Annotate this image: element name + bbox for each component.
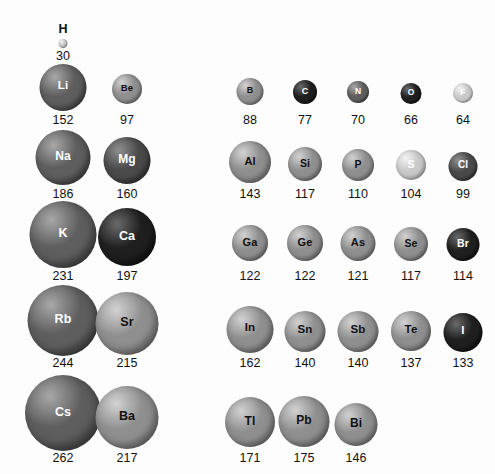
sphere-ca: Ca bbox=[98, 208, 156, 266]
radius-value-na: 186 bbox=[53, 188, 74, 201]
sphere-k: K bbox=[30, 201, 97, 268]
sphere-tl: Tl bbox=[225, 397, 275, 447]
element-symbol-ge: Ge bbox=[298, 237, 313, 248]
radius-value-n: 70 bbox=[351, 114, 365, 127]
sphere-o: O bbox=[401, 83, 422, 104]
sphere-cs: Cs bbox=[25, 375, 101, 451]
radius-value-cl: 99 bbox=[456, 188, 470, 201]
element-symbol-cl: Cl bbox=[458, 160, 468, 170]
radius-value-sn: 140 bbox=[295, 357, 316, 370]
element-symbol-br: Br bbox=[457, 238, 469, 249]
element-symbol-f: F bbox=[460, 88, 465, 97]
sphere-si: Si bbox=[288, 147, 322, 181]
radius-value-te: 137 bbox=[401, 357, 422, 370]
radius-value-tl: 171 bbox=[240, 452, 261, 465]
sphere-li: Li bbox=[40, 64, 87, 111]
element-symbol-k: K bbox=[58, 227, 67, 240]
sphere-sn: Sn bbox=[285, 311, 326, 352]
element-symbol-ga: Ga bbox=[243, 237, 258, 248]
sphere-al: Al bbox=[229, 141, 271, 183]
sphere-te: Te bbox=[391, 311, 431, 351]
radius-value-k: 231 bbox=[53, 270, 74, 283]
element-symbol-cs: Cs bbox=[55, 406, 71, 419]
element-symbol-c: C bbox=[302, 87, 309, 96]
element-symbol-li: Li bbox=[58, 80, 68, 92]
radius-value-ga: 122 bbox=[240, 270, 261, 283]
element-symbol-o: O bbox=[408, 88, 415, 97]
radius-value-pb: 175 bbox=[294, 452, 315, 465]
sphere-ga: Ga bbox=[232, 225, 268, 261]
radius-value-c: 77 bbox=[298, 114, 312, 127]
sphere-sb: Sb bbox=[338, 311, 379, 352]
radius-value-be: 97 bbox=[120, 114, 134, 127]
element-symbol-ca: Ca bbox=[119, 230, 135, 243]
element-symbol-al: Al bbox=[244, 156, 255, 167]
element-symbol-s: S bbox=[407, 159, 414, 170]
sphere-br: Br bbox=[447, 228, 480, 261]
element-symbol-tl: Tl bbox=[245, 415, 256, 427]
sphere-as: As bbox=[341, 226, 376, 261]
sphere-na: Na bbox=[36, 130, 91, 185]
radius-value-mg: 160 bbox=[117, 188, 138, 201]
element-symbol-ba: Ba bbox=[119, 410, 135, 423]
radius-value-b: 88 bbox=[243, 114, 257, 127]
radius-value-sb: 140 bbox=[348, 357, 369, 370]
sphere-in: In bbox=[227, 306, 274, 353]
radius-value-li: 152 bbox=[53, 114, 74, 127]
radius-value-br: 114 bbox=[453, 270, 473, 283]
element-symbol-te: Te bbox=[405, 324, 418, 336]
sphere-pb: Pb bbox=[279, 396, 330, 447]
radius-value-o: 66 bbox=[404, 114, 418, 127]
element-symbol-as: As bbox=[351, 237, 365, 248]
sphere-p: P bbox=[342, 149, 374, 181]
radius-value-f: 64 bbox=[456, 114, 470, 127]
element-symbol-b: B bbox=[247, 86, 254, 95]
element-symbol-be: Be bbox=[121, 83, 133, 93]
element-symbol-bi: Bi bbox=[350, 417, 362, 429]
radius-value-se: 117 bbox=[401, 270, 421, 283]
radius-value-al: 143 bbox=[240, 188, 261, 201]
radius-value-rb: 244 bbox=[53, 357, 74, 370]
element-symbol-pb: Pb bbox=[296, 414, 312, 426]
sphere-cl: Cl bbox=[449, 152, 478, 181]
element-symbol-se: Se bbox=[404, 238, 417, 249]
element-symbol-sb: Sb bbox=[351, 324, 366, 336]
element-symbol-sn: Sn bbox=[298, 324, 313, 336]
atomic-radii-chart: H30Li152Be97B88C77N70O66F64Na186Mg160Al1… bbox=[0, 0, 495, 474]
radius-value-si: 117 bbox=[295, 188, 315, 201]
sphere-c: C bbox=[293, 80, 317, 104]
sphere-i: I bbox=[444, 313, 483, 352]
radius-value-as: 121 bbox=[348, 270, 369, 283]
radius-value-bi: 146 bbox=[346, 452, 367, 465]
radius-value-cs: 262 bbox=[53, 452, 74, 465]
element-symbol-mg: Mg bbox=[118, 153, 136, 165]
element-symbol-n: N bbox=[355, 87, 361, 96]
element-symbol-si: Si bbox=[300, 158, 310, 169]
radius-value-ge: 122 bbox=[295, 270, 316, 283]
sphere-se: Se bbox=[394, 227, 428, 261]
element-symbol-h: H bbox=[58, 23, 67, 36]
element-symbol-p: P bbox=[354, 159, 361, 170]
element-symbol-in: In bbox=[245, 322, 255, 334]
sphere-f: F bbox=[453, 83, 473, 103]
radius-value-ba: 217 bbox=[117, 452, 138, 465]
sphere-sr: Sr bbox=[96, 292, 159, 355]
sphere-b: B bbox=[237, 78, 264, 105]
sphere-ba: Ba bbox=[96, 386, 159, 449]
radius-value-s: 104 bbox=[401, 188, 422, 201]
radius-value-sr: 215 bbox=[117, 357, 138, 370]
sphere-bi: Bi bbox=[335, 403, 378, 446]
radius-value-in: 162 bbox=[240, 357, 261, 370]
sphere-h bbox=[59, 39, 68, 48]
radius-value-ca: 197 bbox=[117, 270, 138, 283]
element-symbol-rb: Rb bbox=[55, 313, 72, 326]
sphere-be: Be bbox=[112, 74, 142, 104]
sphere-n: N bbox=[347, 81, 369, 103]
sphere-rb: Rb bbox=[28, 285, 99, 356]
radius-value-p: 110 bbox=[348, 188, 368, 201]
element-symbol-na: Na bbox=[55, 150, 71, 162]
element-symbol-sr: Sr bbox=[120, 316, 133, 329]
sphere-ge: Ge bbox=[287, 225, 323, 261]
sphere-s: S bbox=[396, 150, 426, 180]
sphere-mg: Mg bbox=[104, 137, 151, 184]
